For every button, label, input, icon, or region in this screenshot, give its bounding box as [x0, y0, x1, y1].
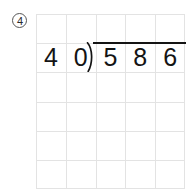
work-cell[interactable] [96, 102, 126, 131]
work-cell[interactable] [36, 160, 66, 188]
dividend-digit-2: 8 [125, 43, 155, 72]
worksheet-grid: 4 0 5 8 6 [36, 14, 185, 189]
divisor-digit-1: 4 [36, 43, 66, 72]
work-cell[interactable] [96, 131, 126, 160]
work-cell[interactable] [66, 102, 96, 131]
work-cell[interactable] [36, 102, 66, 131]
problem-number-text: 4 [17, 16, 23, 27]
quotient-cell-2[interactable] [155, 14, 185, 43]
problem-number-label: 4 [10, 11, 30, 31]
grid-line-horizontal [36, 188, 185, 189]
work-cell[interactable] [155, 160, 185, 188]
dividend-digit-3: 6 [155, 43, 185, 72]
quotient-cell-1[interactable] [125, 14, 155, 43]
division-bracket-icon [86, 42, 96, 72]
work-cell[interactable] [125, 102, 155, 131]
work-cell[interactable] [96, 72, 126, 101]
work-cell[interactable] [66, 160, 96, 188]
work-cell[interactable] [66, 131, 96, 160]
division-overbar [93, 42, 186, 44]
work-cell[interactable] [36, 131, 66, 160]
work-cell[interactable] [66, 72, 96, 101]
work-cell[interactable] [96, 160, 126, 188]
work-cell[interactable] [125, 160, 155, 188]
work-cell[interactable] [125, 131, 155, 160]
work-cell[interactable] [125, 72, 155, 101]
work-cell[interactable] [155, 102, 185, 131]
work-cell[interactable] [155, 131, 185, 160]
work-cell[interactable] [155, 72, 185, 101]
work-cell[interactable] [36, 72, 66, 101]
quotient-cell-3[interactable] [184, 14, 185, 43]
dividend-digit-1: 5 [96, 43, 126, 72]
